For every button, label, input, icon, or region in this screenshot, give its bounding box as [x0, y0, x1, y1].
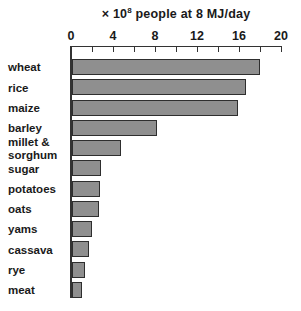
- x-tick-label-4: 4: [101, 29, 125, 43]
- category-label-meat: meat: [8, 277, 68, 303]
- bar-barley: [72, 120, 157, 136]
- bar-oats: [72, 201, 99, 217]
- x-tick-mark: [281, 47, 282, 52]
- bar-rice: [72, 79, 246, 95]
- x-tick-label-12: 12: [185, 29, 209, 43]
- bar-chart-figure: × 108 people at 8 MJ/day 048121620 wheat…: [0, 0, 301, 311]
- bar-maize: [72, 100, 239, 116]
- x-tick-mark: [134, 47, 135, 52]
- x-tick-label-16: 16: [227, 29, 251, 43]
- x-tick-label-8: 8: [143, 29, 167, 43]
- x-tick-mark: [113, 47, 114, 52]
- x-tick-mark: [92, 47, 93, 52]
- x-tick-mark: [239, 47, 240, 52]
- x-tick-mark: [218, 47, 219, 52]
- chart-title-suffix: people at 8 MJ/day: [132, 7, 250, 21]
- bar-sugar: [72, 160, 101, 176]
- bar-wheat: [72, 59, 261, 75]
- bar-meat: [72, 282, 82, 298]
- x-tick-label-20: 20: [269, 29, 293, 43]
- x-tick-mark: [176, 47, 177, 52]
- chart-title: × 108 people at 8 MJ/day: [70, 7, 282, 21]
- bar-millet-sorghum: [72, 140, 121, 156]
- x-tick-mark: [260, 47, 261, 52]
- x-tick-mark: [197, 47, 198, 52]
- bar-rye: [72, 262, 86, 278]
- bar-yams: [72, 221, 93, 237]
- bar-cassava: [72, 241, 90, 257]
- bar-potatoes: [72, 181, 100, 197]
- x-tick-label-0: 0: [59, 29, 83, 43]
- x-tick-mark: [155, 47, 156, 52]
- chart-title-prefix: × 10: [102, 7, 127, 21]
